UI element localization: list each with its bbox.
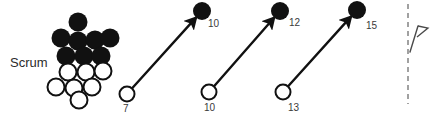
run-origin-label-2: 10 <box>204 102 216 113</box>
run-target-label-3: 15 <box>366 20 378 31</box>
scrum-label: Scrum <box>10 55 48 70</box>
scrum-filled-player <box>101 29 120 48</box>
run-origin-label-3: 13 <box>288 102 300 113</box>
corner-flag-icon <box>410 26 428 52</box>
scrum-open-player <box>60 64 77 81</box>
run-origin-player-2 <box>202 85 217 100</box>
scrum-filled-players-group <box>52 13 120 66</box>
scrum-open-player <box>71 92 88 109</box>
run-origin-label-1: 7 <box>123 103 129 114</box>
scrum-filled-player <box>69 13 88 32</box>
corner-flag-banner <box>417 26 428 37</box>
run-target-player-2 <box>271 2 289 20</box>
scrum-open-player <box>84 79 101 96</box>
scrum-diagram-canvas: Scrum 7 10 <box>0 0 436 114</box>
scrum-filled-player <box>52 29 71 48</box>
run-origin-player-3 <box>276 85 291 100</box>
run-target-player-3 <box>348 1 366 19</box>
run-origin-player-1 <box>120 87 135 102</box>
run-arrow-line-1 <box>132 18 195 88</box>
scrum-open-player <box>95 63 112 80</box>
run-target-label-1: 10 <box>208 18 220 29</box>
diagram-svg: Scrum 7 10 <box>0 0 436 114</box>
scrum-open-player <box>48 79 65 96</box>
scrum-filled-player <box>75 47 94 66</box>
run-arrow-line-2 <box>214 19 273 86</box>
corner-flag-stem <box>410 26 418 52</box>
run-target-label-2: 12 <box>289 17 301 28</box>
scrum-filled-player <box>57 47 76 66</box>
scrum-open-players-group <box>48 63 112 109</box>
